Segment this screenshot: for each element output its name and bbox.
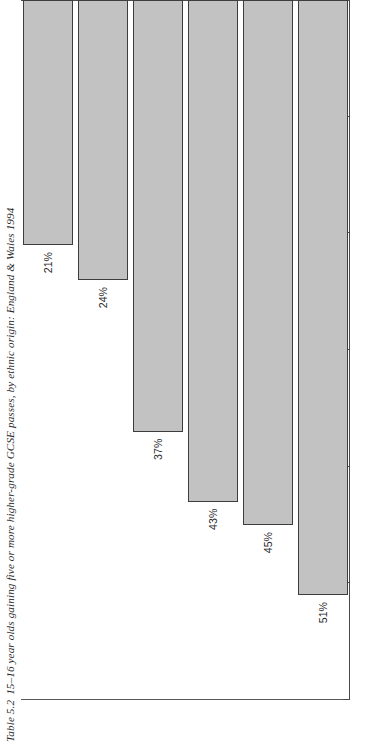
value-tick xyxy=(343,699,350,700)
value-axis-line xyxy=(349,0,350,700)
bar xyxy=(188,0,238,502)
bar xyxy=(298,0,348,595)
bar-value-label: 37% xyxy=(152,432,164,460)
plot-area: 0%10%20%30%40%50%60% Chinese & Other Asi… xyxy=(21,0,350,700)
bar xyxy=(78,0,128,280)
bar-value-label: 51% xyxy=(317,595,329,623)
bar xyxy=(133,0,183,432)
bar-chart: 0%10%20%30%40%50%60% Chinese & Other Asi… xyxy=(0,0,372,742)
bar-value-label: 45% xyxy=(262,525,274,553)
bar xyxy=(23,0,73,245)
bar-value-label: 43% xyxy=(207,502,219,530)
bar-value-label: 24% xyxy=(97,280,109,308)
bar-value-label: 21% xyxy=(42,245,54,273)
figure-page: Table 5.2 15–16 year olds gaining five o… xyxy=(0,0,372,742)
plot-frame-max-line xyxy=(21,699,350,700)
bar xyxy=(243,0,293,525)
